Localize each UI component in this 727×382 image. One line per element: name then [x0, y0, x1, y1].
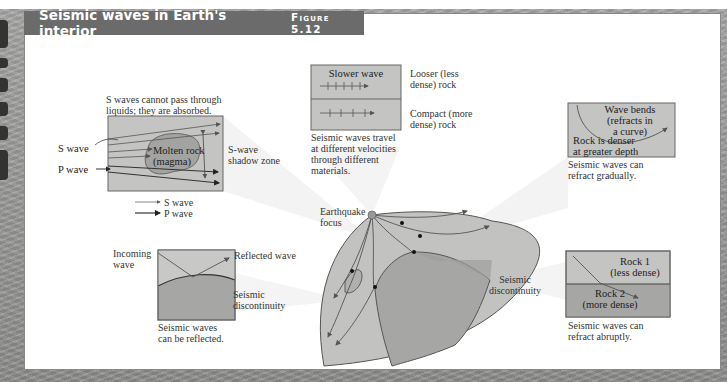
s-wave-label: S wave	[58, 143, 89, 154]
legend-s-wave: S wave	[164, 197, 193, 208]
absorption-caption: S waves cannot pass through liquids; the…	[106, 94, 222, 116]
reflection-caption: Seismic waves can be reflected.	[158, 322, 224, 344]
looser-rock-label: Looser (less dense) rock	[410, 68, 459, 90]
reflection-discontinuity-label: Seismic discontinuity	[233, 289, 285, 311]
earthquake-focus-label: Earthquake focus	[320, 206, 366, 228]
abrupt-refraction-caption: Seismic waves can refract abruptly.	[568, 320, 644, 342]
wave-bends-label: Wave bends (refracts in a curve)	[590, 104, 670, 137]
compact-rock-label: Compact (more dense) rock	[410, 108, 472, 130]
reflection-box	[158, 250, 235, 320]
denser-rock-label: Rock is denser at greater depth	[573, 135, 638, 157]
velocity-caption: Seismic waves travel at different veloci…	[311, 132, 396, 176]
rock2-label: Rock 2 (more dense)	[565, 288, 655, 310]
reflected-wave-label: Reflected wave	[234, 250, 296, 261]
magma-label: Molten rock (magma)	[153, 145, 205, 167]
earth-discontinuity-label: Seismic discontinuity	[475, 274, 555, 296]
legend-p-wave: P wave	[164, 208, 193, 219]
incoming-wave-label: Incoming wave	[113, 248, 151, 270]
earthquake-focus-icon	[368, 211, 376, 219]
p-wave-label: P wave	[58, 164, 88, 175]
rock1-label: Rock 1 (less dense)	[595, 256, 675, 278]
slower-wave-label: Slower wave	[311, 68, 401, 79]
gradual-refraction-caption: Seismic waves can refract gradually.	[568, 159, 644, 181]
shadow-zone-label: S-wave shadow zone	[228, 144, 280, 166]
